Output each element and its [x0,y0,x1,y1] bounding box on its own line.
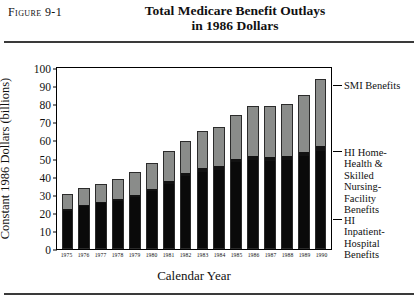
x-axis-tick-label: 1986 [245,252,262,258]
bar-slot [194,68,211,249]
x-axis-tick-label: 1979 [126,252,143,258]
x-axis-tick-label: 1981 [160,252,177,258]
bar-slot [245,68,262,249]
stacked-bar[interactable] [197,131,209,249]
figure-page: Figure 9-1 Total Medicare Benefit Outlay… [0,0,418,298]
legend-label-line: Skilled [344,170,416,181]
bar-segment-smi [265,107,275,157]
bar-segment-hi-inpatient-hospital [79,206,89,248]
bar-segment-hi-inpatient-hospital [231,162,241,248]
x-axis-tick-label: 1976 [75,252,92,258]
legend-item-hi-home-health: HI Home-Health &SkilledNursing-FacilityB… [344,147,416,215]
bar-segment-smi [79,189,89,204]
stacked-bar[interactable] [281,104,293,249]
x-axis-tick-label: 1978 [109,252,126,258]
stacked-bar[interactable] [129,172,141,249]
bar-segment-hi-inpatient-hospital [316,151,326,248]
stacked-bar[interactable] [180,141,192,249]
bar-slot [127,68,144,249]
stacked-bar[interactable] [78,188,90,249]
bar-segment-smi [96,185,106,202]
bar-segment-smi [130,173,140,195]
bar-slot [110,68,127,249]
bar-segment-smi [164,152,174,181]
y-axis-tick-mark [53,250,57,251]
bar-slot [59,68,76,249]
legend-label-line: HI [344,215,416,226]
bar-slot [211,68,228,249]
stacked-bar[interactable] [298,95,310,249]
x-axis-tick-labels: 1975197619771978197919801981198219831984… [56,252,332,258]
bar-segment-smi [231,116,241,159]
x-axis-tick-label: 1977 [92,252,109,258]
x-axis-tick-label: 1987 [262,252,279,258]
bar-slot [228,68,245,249]
figure-number: Figure 9-1 [8,5,62,20]
bar-segment-hi-inpatient-hospital [147,191,157,248]
legend-label-line: Nursing- [344,181,416,192]
stacked-bar[interactable] [62,194,74,249]
bar-slot [312,68,329,249]
legend-label-line: Facility [344,193,416,204]
bar-segment-smi [147,164,157,189]
stacked-bar[interactable] [230,115,242,249]
legend-item-smi: SMI Benefits [344,80,416,91]
x-axis-tick-label: 1980 [143,252,160,258]
header-divider [4,41,414,43]
bar-segment-smi [282,105,292,156]
legend-label-line: Benefits [344,204,416,215]
stacked-bar[interactable] [163,151,175,249]
legend-leader-line [333,151,342,152]
legend-label-line: Benefits [344,249,416,260]
stacked-bar[interactable] [146,163,158,249]
plot-area: 0102030405060708090100 [56,67,332,250]
legend-leader-line [333,85,342,86]
bar-segment-hi-inpatient-hospital [181,176,191,248]
bar-segment-hi-inpatient-hospital [113,201,123,248]
stacked-bar[interactable] [247,106,259,249]
bar-slot [177,68,194,249]
figure-title-line-2: in 1986 Dollars [110,18,360,33]
bar-slot [76,68,93,249]
bar-segment-smi [299,96,309,151]
y-axis-title-text: Constant 1986 Dollars (billions) [0,78,14,239]
legend-label-line: Hospital [344,238,416,249]
bar-segment-hi-inpatient-hospital [63,211,73,248]
x-axis-tick-label: 1989 [296,252,313,258]
bar-slot [160,68,177,249]
bar-segment-hi-inpatient-hospital [214,170,224,248]
x-axis-tick-label: 1975 [58,252,75,258]
footer-divider [4,293,414,295]
bar-segment-hi-inpatient-hospital [130,197,140,248]
bar-segment-hi-inpatient-hospital [248,160,258,248]
y-axis-title: Constant 1986 Dollars (billions) [0,67,14,250]
stacked-bar[interactable] [213,127,225,249]
x-axis-tick-label: 1984 [211,252,228,258]
x-axis-tick-label: 1990 [313,252,330,258]
x-axis-tick-label: 1988 [279,252,296,258]
bar-slot [262,68,279,249]
bar-segment-smi [248,107,258,156]
bar-slot [295,68,312,249]
bar-segment-hi-inpatient-hospital [299,156,309,248]
bar-segment-smi [181,142,191,173]
bar-segment-smi [316,80,326,147]
bar-segment-hi-inpatient-hospital [282,160,292,248]
bar-slot [143,68,160,249]
bar-segment-hi-inpatient-hospital [96,203,106,248]
bar-segment-hi-inpatient-hospital [265,161,275,248]
bar-segment-smi [214,128,224,166]
bar-segment-smi [113,180,123,198]
bar-slot [93,68,110,249]
stacked-bar[interactable] [95,184,107,249]
stacked-bar[interactable] [315,79,327,249]
legend-label-line: Inpatient- [344,226,416,237]
bar-group [57,68,331,249]
legend-label-line: SMI Benefits [344,80,416,91]
stacked-bar[interactable] [112,179,124,249]
stacked-bar[interactable] [264,106,276,249]
x-axis-tick-label: 1985 [228,252,245,258]
bar-segment-hi-inpatient-hospital [164,184,174,248]
figure-title-line-1: Total Medicare Benefit Outlays [110,3,360,18]
bar-segment-hi-inpatient-hospital [198,172,208,249]
